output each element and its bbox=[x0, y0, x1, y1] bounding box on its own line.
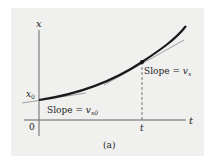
y-axis-label: x bbox=[36, 18, 42, 29]
position-time-graph: x t 0 t x0 Slope = vx0 Slope = vx (a) bbox=[0, 0, 214, 164]
position-curve bbox=[39, 26, 186, 100]
t-axis-label: t bbox=[189, 115, 194, 126]
initial-slope-annotation: Slope = vx0 bbox=[47, 105, 98, 116]
panel-label: (a) bbox=[103, 140, 115, 150]
t-marker-label: t bbox=[140, 123, 144, 133]
y-intercept-label: x0 bbox=[26, 89, 35, 100]
point-at-t bbox=[140, 60, 144, 64]
origin-label: 0 bbox=[29, 122, 35, 132]
tangent-at-t-line bbox=[104, 40, 184, 85]
slope-at-t-annotation: Slope = vx bbox=[144, 66, 192, 77]
